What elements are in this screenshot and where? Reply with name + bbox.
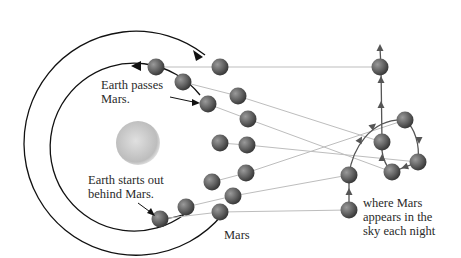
mars-sky-position xyxy=(410,154,427,171)
sky-label-line2: appears in the xyxy=(363,210,435,224)
sky-path-arrow-icon xyxy=(377,44,384,51)
earth-starts-label: Earth starts out behind Mars. xyxy=(88,173,164,201)
mars-position xyxy=(212,204,229,221)
earth-position xyxy=(204,174,221,191)
sky-label: where Mars appears in the sky each night xyxy=(363,196,435,238)
sky-label-line1: where Mars xyxy=(363,196,435,210)
earth-position xyxy=(200,96,217,113)
mars-sky-position xyxy=(397,112,414,129)
sky-path-arrow-icon xyxy=(379,154,386,161)
earth-starts-line2: behind Mars. xyxy=(88,187,164,201)
mars-position xyxy=(230,88,247,105)
mars-sky-position xyxy=(341,202,358,219)
sky-path-arrow-icon xyxy=(346,188,353,195)
mars-position xyxy=(240,111,257,128)
mars-position xyxy=(238,165,255,182)
sky-path-arrow-icon xyxy=(378,101,385,108)
mars-position xyxy=(225,188,242,205)
mars-position xyxy=(239,137,256,154)
sight-line xyxy=(183,82,382,142)
earth-starts-arrow-icon xyxy=(147,208,155,216)
earth-position xyxy=(175,74,192,91)
earth-passes-line2: Mars. xyxy=(101,92,163,106)
earth-position xyxy=(152,211,169,228)
earth-passes-line1: Earth passes xyxy=(101,78,163,92)
earth-passes-label: Earth passes Mars. xyxy=(101,78,163,106)
sky-label-line3: sky each night xyxy=(363,224,435,238)
mars-sky-position xyxy=(341,167,358,184)
sky-path-arrow-icon xyxy=(378,76,385,83)
mars-position xyxy=(212,59,229,76)
mars-sky-position xyxy=(384,164,401,181)
earth-position xyxy=(148,59,165,76)
earth-position xyxy=(178,199,195,216)
sun xyxy=(116,121,160,165)
mars-label: Mars xyxy=(224,228,250,242)
sky-path-arrow-icon xyxy=(400,163,409,172)
mars-sky-position xyxy=(374,134,391,151)
earth-passes-arrow-icon xyxy=(192,99,200,106)
earth-position xyxy=(212,135,229,152)
mars-sky-position xyxy=(372,59,389,76)
earth-starts-line1: Earth starts out xyxy=(88,173,164,187)
